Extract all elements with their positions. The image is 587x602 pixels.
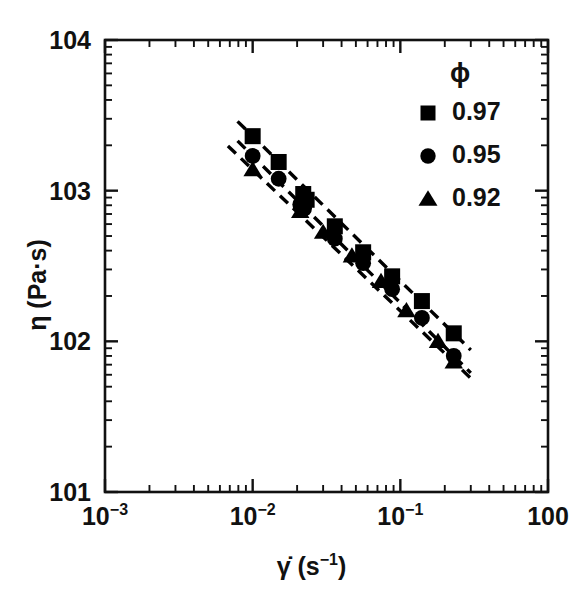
- legend-title: ϕ: [450, 58, 470, 88]
- data-point-circle: [414, 310, 430, 326]
- legend-entry-0.92[interactable]: 0.92: [419, 183, 501, 211]
- data-point-square: [446, 325, 462, 341]
- legend-entry-0.95[interactable]: 0.95: [420, 140, 500, 168]
- x-tick-label: 10−1: [377, 501, 423, 530]
- y-tick-label: 102: [49, 327, 91, 355]
- y-tick-label: 101: [49, 478, 91, 506]
- data-point-square: [271, 154, 287, 170]
- data-point-triangle: [419, 190, 438, 206]
- data-point-square: [421, 106, 436, 121]
- legend-label: 0.97: [452, 97, 501, 125]
- x-axis-title: γ̇ (s−1): [277, 551, 347, 580]
- data-point-square: [245, 128, 261, 144]
- data-point-circle: [420, 148, 435, 163]
- scatter-plot-svg: 10−310−210−1100101102103104γ̇ (s−1)η (Pa…: [0, 0, 587, 602]
- x-tick-label: 10−2: [230, 501, 276, 530]
- data-point-square: [414, 293, 430, 309]
- data-point-circle: [271, 171, 287, 187]
- series-0.97: [238, 121, 471, 350]
- x-tick-label: 100: [527, 502, 569, 530]
- y-tick-label: 103: [49, 177, 91, 205]
- y-tick-label: 104: [49, 26, 91, 54]
- figure-container: 10−310−210−1100101102103104γ̇ (s−1)η (Pa…: [0, 0, 587, 602]
- y-axis-title: η (Pa·s): [23, 239, 51, 331]
- legend-label: 0.95: [452, 140, 501, 168]
- series-0.92: [228, 146, 471, 378]
- legend-entry-0.97[interactable]: 0.97: [421, 97, 501, 125]
- legend-label: 0.92: [452, 183, 501, 211]
